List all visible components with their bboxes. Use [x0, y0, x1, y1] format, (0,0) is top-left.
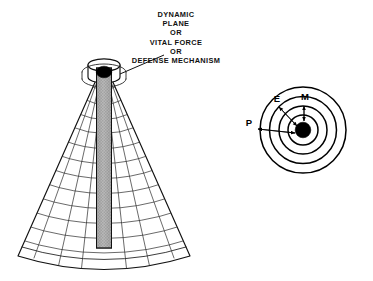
figure-root: DYNAMIC PLANE OR VITAL FORCE OR DEFENSE … [0, 0, 373, 281]
vertical-shaded-column [97, 68, 112, 248]
caption-line-3: VITAL FORCE [150, 38, 202, 47]
label-e: E [274, 93, 280, 104]
black-ellipse-cap [96, 66, 112, 78]
caption-line-0: DYNAMIC [158, 10, 195, 19]
caption-line-1: PLANE [163, 19, 190, 28]
diagram-canvas: DYNAMIC PLANE OR VITAL FORCE OR DEFENSE … [0, 0, 373, 281]
caption-line-2: OR [170, 28, 182, 37]
label-p: P [246, 117, 253, 128]
label-m: M [301, 91, 309, 102]
column-shading-overlay [97, 68, 112, 248]
core-dot [295, 122, 311, 138]
caption-line-4: OR [170, 47, 182, 56]
